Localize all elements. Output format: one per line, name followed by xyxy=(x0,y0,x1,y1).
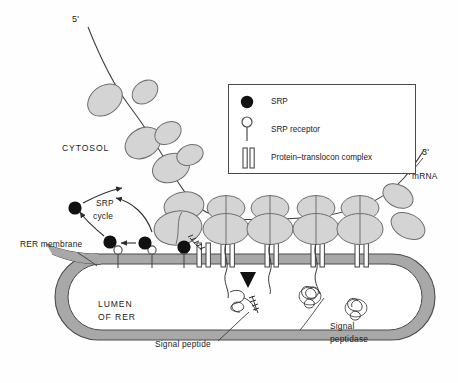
ribosome-subunit xyxy=(386,207,429,245)
free-ribosome-subunits xyxy=(81,75,206,188)
bound-ribosome xyxy=(247,196,293,245)
translocon-icon xyxy=(237,143,263,172)
ribosome-subunit xyxy=(128,75,163,109)
label-signal-peptidase-line1: Signal xyxy=(330,322,354,331)
rer-cisterna xyxy=(46,244,435,340)
srp-particle xyxy=(177,240,190,253)
srp-receptor-icon xyxy=(237,115,263,144)
label-lumen-line1: LUMEN xyxy=(98,300,133,310)
legend-label-srp-receptor: SRP receptor xyxy=(271,115,320,144)
legend-label-translocon: Protein–translocon complex xyxy=(271,143,372,172)
label-srp-cycle-line2: cycle xyxy=(93,212,113,221)
legend-row-translocon: Protein–translocon complex xyxy=(229,143,415,172)
srp-particle xyxy=(68,201,81,214)
ribosome-subunit xyxy=(379,179,418,213)
srp-cycle-return-arrow xyxy=(116,198,152,232)
legend-label-srp: SRP xyxy=(271,87,288,116)
srp-dot-icon xyxy=(237,87,263,116)
bound-ribosome xyxy=(203,196,249,245)
legend-row-srp-receptor: SRP receptor xyxy=(229,115,415,144)
srp-particle xyxy=(103,235,116,248)
label-five-prime: 5' xyxy=(72,14,79,24)
dissociating-subunits xyxy=(379,179,430,245)
label-rer-membrane: RER membrane xyxy=(20,240,82,249)
bound-ribosome xyxy=(337,196,383,245)
srp-particle xyxy=(138,236,151,249)
label-signal-peptidase-line2: peptidase xyxy=(330,335,368,344)
label-cytosol: CYTOSOL xyxy=(62,144,109,154)
bound-ribosomes xyxy=(203,196,383,245)
figure-canvas: 5' 3' mRNA CYTOSOL SRP cycle RER membran… xyxy=(0,0,458,383)
label-srp-cycle-line1: SRP xyxy=(96,199,114,208)
legend-row-srp: SRP xyxy=(229,87,415,116)
label-signal-peptide: Signal peptide xyxy=(155,340,211,349)
label-three-prime: 3' xyxy=(422,147,429,157)
ribosome-subunit xyxy=(81,77,128,122)
bound-ribosome xyxy=(293,196,339,245)
label-lumen-line2: OF RER xyxy=(98,313,136,323)
legend-box: SRP SRP receptor Protein–translocon comp… xyxy=(228,84,416,174)
diagram-svg xyxy=(0,0,458,383)
